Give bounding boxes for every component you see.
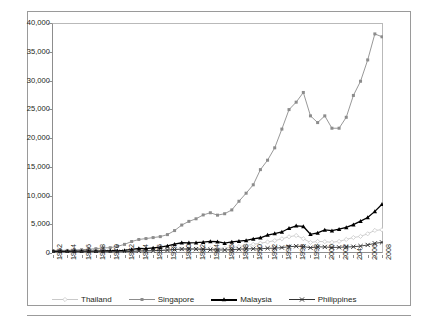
x-axis-tick-mark: [82, 255, 83, 258]
legend-swatch-triangle-icon: [211, 295, 237, 304]
legend-swatch-square-icon: [129, 295, 155, 304]
data-point-marker: [337, 239, 341, 243]
data-point-marker: [273, 239, 277, 243]
legend-item-philippines[interactable]: Philippines: [289, 295, 357, 304]
data-point-marker: [209, 211, 212, 214]
y-axis: 05,00010,00015,00020,00025,00030,00035,0…: [0, 0, 50, 300]
x-axis-tick-mark: [74, 255, 75, 258]
x-axis-tick-mark: [282, 255, 283, 258]
x-axis-tick-mark: [260, 255, 261, 258]
x-axis-tick-mark: [89, 255, 90, 258]
data-point-marker: [273, 146, 276, 149]
legend-label: Philippines: [318, 295, 357, 304]
data-point-marker: [166, 233, 169, 236]
data-point-marker: [123, 243, 126, 246]
data-point-marker: [358, 234, 362, 238]
legend-label: Singapore: [158, 295, 194, 304]
x-axis-tick-mark: [96, 255, 97, 258]
data-point-marker: [309, 114, 312, 117]
data-point-marker: [222, 297, 226, 301]
data-point-marker: [323, 114, 326, 117]
data-point-marker: [223, 212, 226, 215]
data-point-marker: [180, 224, 183, 227]
x-axis: 1962196419661968197019721974197619781980…: [52, 255, 383, 291]
series-singapore: [52, 32, 383, 252]
chart-legend: ThailandSingaporeMalaysiaPhilippines: [52, 292, 392, 306]
legend-item-singapore[interactable]: Singapore: [129, 295, 194, 304]
x-axis-tick-mark: [246, 255, 247, 258]
x-axis-tick-mark: [196, 255, 197, 258]
data-point-marker: [316, 121, 319, 124]
x-axis-tick-mark: [60, 255, 61, 258]
x-axis-tick-mark: [103, 255, 104, 258]
data-point-marker: [294, 233, 298, 237]
data-point-marker: [237, 200, 240, 203]
x-axis-tick-mark: [375, 255, 376, 258]
x-axis-tick-mark: [361, 255, 362, 258]
x-axis-tick-mark: [318, 255, 319, 258]
data-point-marker: [373, 32, 376, 35]
x-axis-tick-label: 2008: [385, 244, 393, 260]
x-axis-tick-mark: [268, 255, 269, 258]
series-canvas: [52, 23, 383, 253]
legend-item-thailand[interactable]: Thailand: [52, 295, 112, 304]
x-axis-tick-mark: [232, 255, 233, 258]
chart-figure: 05,00010,00015,00020,00025,00030,00035,0…: [0, 0, 439, 324]
y-axis-tick-mark: [48, 253, 52, 254]
legend-item-malaysia[interactable]: Malaysia: [211, 295, 272, 304]
data-point-marker: [344, 237, 348, 241]
data-point-marker: [245, 192, 248, 195]
y-axis-tick-label: 35,000: [4, 48, 50, 56]
data-point-marker: [195, 217, 198, 220]
y-axis-tick-label: 5,000: [4, 220, 50, 228]
x-axis-tick-mark: [382, 255, 383, 258]
data-point-marker: [216, 214, 219, 217]
data-point-marker: [302, 91, 305, 94]
data-point-marker: [130, 240, 133, 243]
x-axis-tick-mark: [368, 255, 369, 258]
x-axis-tick-mark: [225, 255, 226, 258]
x-axis-tick-mark: [175, 255, 176, 258]
data-point-marker: [259, 168, 262, 171]
data-point-marker: [330, 127, 333, 130]
plot-area: [52, 23, 383, 253]
data-point-marker: [380, 228, 383, 232]
data-point-marker: [159, 235, 162, 238]
data-point-marker: [144, 237, 147, 240]
legend-label: Thailand: [81, 295, 112, 304]
y-axis-tick-label: 25,000: [4, 105, 50, 113]
data-point-marker: [381, 35, 384, 38]
data-point-marker: [366, 232, 370, 236]
data-point-marker: [359, 80, 362, 83]
data-point-marker: [351, 235, 355, 239]
y-axis-tick-label: 15,000: [4, 163, 50, 171]
data-point-marker: [152, 236, 155, 239]
data-point-marker: [338, 127, 341, 130]
x-axis-tick-mark: [303, 255, 304, 258]
y-axis-tick-label: 20,000: [4, 134, 50, 142]
data-point-marker: [373, 228, 377, 232]
data-point-marker: [301, 237, 305, 241]
x-axis-tick-mark: [146, 255, 147, 258]
legend-label: Malaysia: [240, 295, 272, 304]
data-point-marker: [63, 297, 67, 301]
data-point-marker: [288, 108, 291, 111]
x-axis-tick-mark: [53, 255, 54, 258]
data-point-marker: [202, 213, 205, 216]
x-axis-tick-mark: [325, 255, 326, 258]
x-axis-tick-mark: [160, 255, 161, 258]
y-axis-tick-label: 10,000: [4, 192, 50, 200]
x-axis-tick-mark: [332, 255, 333, 258]
data-point-marker: [345, 116, 348, 119]
data-point-marker: [252, 183, 255, 186]
x-axis-tick-mark: [275, 255, 276, 258]
bottom-divider: [27, 315, 411, 316]
series-line: [53, 34, 382, 251]
x-axis-tick-mark: [203, 255, 204, 258]
data-point-marker: [266, 159, 269, 162]
data-point-marker: [230, 208, 233, 211]
data-point-marker: [280, 237, 284, 241]
x-axis-tick-mark: [346, 255, 347, 258]
x-axis-tick-mark: [339, 255, 340, 258]
data-point-marker: [137, 238, 140, 241]
